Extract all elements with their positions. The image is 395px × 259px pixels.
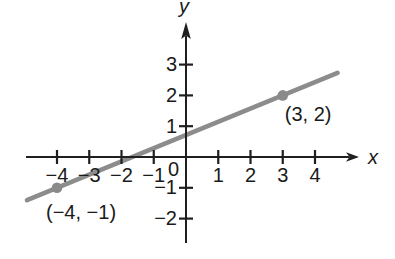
origin-label: 0 <box>168 158 179 180</box>
y-tick-label: 3 <box>166 53 177 75</box>
data-point <box>52 183 63 194</box>
x-tick-label: −3 <box>78 164 101 186</box>
data-point <box>277 90 288 101</box>
point-label: (−4, −1) <box>46 201 116 223</box>
plotted-line <box>27 73 338 200</box>
coordinate-plane-figure: −4−3−2−11234−2−1123 (−4, −1)(3, 2) x y 0 <box>0 0 395 259</box>
x-tick-label: 1 <box>213 164 224 186</box>
y-axis-label: y <box>177 0 190 17</box>
graph-canvas: −4−3−2−11234−2−1123 (−4, −1)(3, 2) x y 0 <box>0 0 395 259</box>
x-axis-label: x <box>367 146 379 168</box>
y-tick-label: 1 <box>166 115 177 137</box>
y-tick-label: 2 <box>166 84 177 106</box>
x-tick-label: 4 <box>309 164 320 186</box>
point-label: (3, 2) <box>285 103 332 125</box>
y-tick-label: −2 <box>154 207 177 229</box>
x-tick-label: 3 <box>277 164 288 186</box>
plotted-line-layer <box>27 73 338 200</box>
x-tick-label: −2 <box>110 164 133 186</box>
x-tick-label: 2 <box>245 164 256 186</box>
